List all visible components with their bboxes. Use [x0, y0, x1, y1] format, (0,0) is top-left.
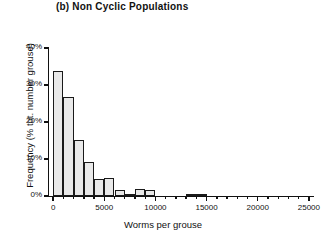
histogram-bar — [115, 190, 125, 196]
x-tick-label: 0 — [51, 203, 55, 212]
chart-title: (b) Non Cyclic Populations — [56, 1, 188, 12]
x-tick-mark — [93, 196, 94, 199]
figure-panel: (b) Non Cyclic Populations Frequency (% … — [0, 0, 329, 240]
x-tick-mark — [52, 196, 53, 201]
histogram-bar — [125, 194, 135, 196]
histogram-bar — [145, 190, 155, 196]
histogram-bar — [196, 194, 206, 196]
x-tick-mark — [226, 196, 227, 199]
histogram-bar — [135, 189, 145, 196]
plot-area: 0%10%20%30%40%0500010000150002000025000 — [48, 48, 314, 196]
histogram-bar — [53, 71, 63, 196]
x-tick-mark — [257, 196, 258, 201]
histogram-bar — [94, 179, 104, 196]
x-tick-mark — [63, 196, 64, 199]
x-tick-mark — [196, 196, 197, 199]
y-tick-mark — [44, 121, 48, 122]
x-tick-label: 15000 — [195, 203, 217, 212]
x-tick-mark — [134, 196, 135, 199]
x-tick-mark — [175, 196, 176, 199]
x-tick-mark — [155, 196, 156, 201]
x-tick-mark — [83, 196, 84, 199]
y-tick-label: 30% — [26, 79, 42, 88]
x-tick-mark — [114, 196, 115, 199]
x-tick-mark — [73, 196, 74, 199]
histogram-bar — [84, 162, 94, 196]
x-tick-mark — [145, 196, 146, 199]
x-tick-mark — [308, 196, 309, 201]
x-tick-mark — [165, 196, 166, 199]
x-tick-label: 25000 — [298, 203, 320, 212]
x-tick-label: 10000 — [144, 203, 166, 212]
y-tick-mark — [44, 84, 48, 85]
x-tick-label: 5000 — [95, 203, 113, 212]
x-tick-mark — [288, 196, 289, 199]
y-tick-label: 10% — [26, 153, 42, 162]
x-tick-mark — [124, 196, 125, 199]
histogram-bar — [63, 97, 73, 196]
x-tick-mark — [185, 196, 186, 199]
x-tick-mark — [298, 196, 299, 199]
y-tick-mark — [44, 195, 48, 196]
x-tick-mark — [267, 196, 268, 199]
x-tick-mark — [247, 196, 248, 199]
histogram-bar — [186, 194, 196, 196]
x-tick-mark — [278, 196, 279, 199]
y-tick-mark — [44, 158, 48, 159]
x-tick-mark — [206, 196, 207, 201]
y-tick-label: 40% — [26, 42, 42, 51]
y-tick-label: 20% — [26, 116, 42, 125]
x-tick-mark — [216, 196, 217, 199]
x-tick-label: 20000 — [247, 203, 269, 212]
x-axis-label: Worms per grouse — [18, 219, 308, 230]
y-tick-label: 0% — [30, 190, 42, 199]
histogram-bar — [104, 178, 114, 196]
x-tick-mark — [104, 196, 105, 201]
y-tick-mark — [44, 47, 48, 48]
x-tick-mark — [237, 196, 238, 199]
histogram-bar — [74, 140, 84, 196]
